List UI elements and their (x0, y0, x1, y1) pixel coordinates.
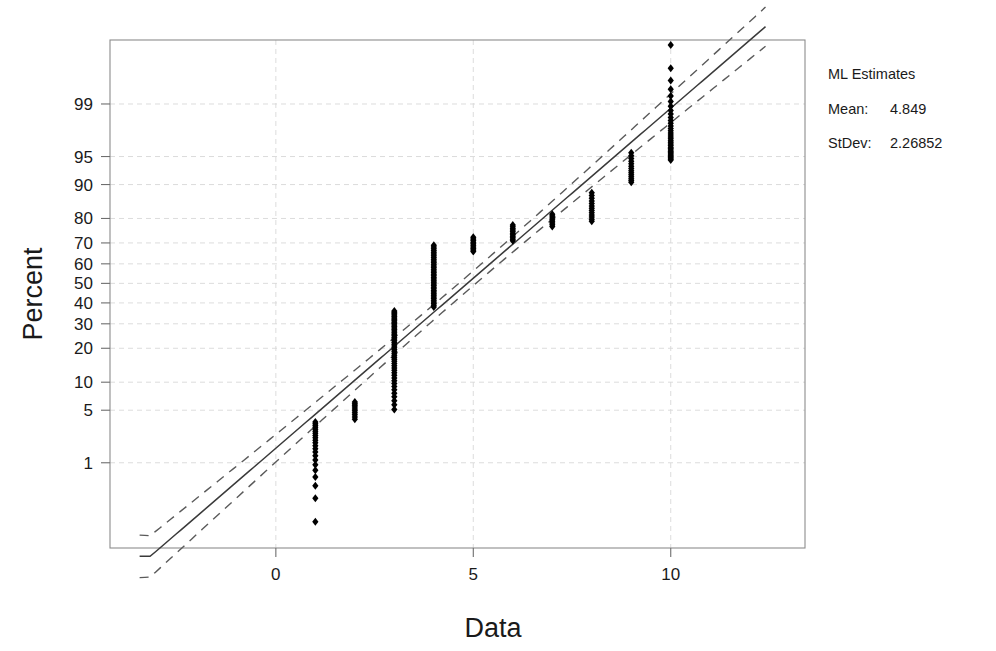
legend-value-stdev: 2.26852 (890, 135, 942, 151)
x-axis-ticks: 0510 (271, 548, 680, 584)
y-tick-label: 20 (74, 339, 93, 358)
y-tick-label: 95 (74, 148, 93, 167)
y-tick-label: 30 (74, 315, 93, 334)
x-axis-title: Data (464, 613, 522, 643)
data-point (668, 77, 674, 85)
y-tick-label: 99 (74, 95, 93, 114)
x-tick-label: 10 (661, 565, 680, 584)
legend-row-stdev: StDev: 2.26852 (828, 135, 988, 151)
data-point (668, 41, 674, 49)
y-tick-label: 10 (74, 373, 93, 392)
normal-probability-plot: 151020304050607080909599 0510 Data Perce… (0, 0, 996, 651)
horizontal-gridlines (110, 104, 805, 463)
legend-label-stdev: StDev: (828, 135, 890, 151)
plot-frame (110, 40, 805, 548)
y-tick-label: 70 (74, 234, 93, 253)
y-tick-label: 50 (74, 274, 93, 293)
y-tick-label: 40 (74, 294, 93, 313)
data-point (668, 64, 674, 72)
data-point (312, 518, 318, 526)
x-tick-label: 0 (271, 565, 280, 584)
data-point (312, 482, 318, 490)
y-tick-label: 60 (74, 255, 93, 274)
legend-label-mean: Mean: (828, 101, 890, 117)
ml-estimates-legend: ML Estimates Mean: 4.849 StDev: 2.26852 (828, 66, 988, 169)
y-tick-label: 90 (74, 176, 93, 195)
y-axis-title: Percent (18, 247, 48, 341)
legend-value-mean: 4.849 (890, 101, 926, 117)
vertical-gridlines (276, 40, 671, 548)
confidence-band-group (140, 7, 766, 578)
legend-row-mean: Mean: 4.849 (828, 101, 988, 117)
data-point (312, 494, 318, 502)
y-tick-label: 5 (84, 401, 93, 420)
y-tick-label: 1 (84, 454, 93, 473)
y-tick-label: 80 (74, 209, 93, 228)
y-axis-ticks: 151020304050607080909599 (74, 95, 110, 473)
x-tick-label: 5 (469, 565, 478, 584)
legend-title: ML Estimates (828, 66, 988, 82)
